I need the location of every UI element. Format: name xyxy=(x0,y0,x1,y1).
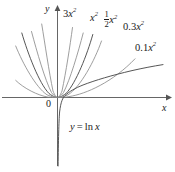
curve-label-half-x-squared: 12x2 xyxy=(104,10,117,29)
curve-label-0-1-x-squared-exponent: 2 xyxy=(153,40,156,47)
logarithm-curve-group xyxy=(58,65,163,166)
plot-canvas xyxy=(0,0,175,172)
curve-label-natural-log: y = ln x xyxy=(70,122,100,133)
curve-label-0-3-x-squared-exponent: 2 xyxy=(141,19,144,26)
natural-log-variable: x xyxy=(95,121,100,132)
function-graph-figure: 3x2 x2 12x2 0.3x2 0.1x2 y = ln x y x 0 xyxy=(0,0,175,172)
power-function-curves xyxy=(16,24,135,98)
curve-label-0-3-x-squared-coefficient: 0.3 xyxy=(123,21,136,32)
curve-label-half-x-squared-exponent: 2 xyxy=(114,13,117,20)
curve-0-3-x-squared xyxy=(16,41,102,98)
y-axis-label: y xyxy=(45,4,49,14)
origin-label: 0 xyxy=(46,99,51,109)
x-axis-arrow-icon xyxy=(166,95,172,101)
curve-label-3x-squared-exponent: 2 xyxy=(73,6,76,13)
curve-label-x-squared: x2 xyxy=(90,11,98,23)
curve-label-0-1-x-squared: 0.1x2 xyxy=(135,41,156,53)
curve-0-1-x-squared xyxy=(16,59,135,98)
curve-label-3x-squared: 3x2 xyxy=(63,7,76,19)
y-axis-arrow-icon xyxy=(55,5,61,11)
curve-label-x-squared-exponent: 2 xyxy=(95,10,98,17)
curve-natural-log xyxy=(58,65,163,166)
axes-group xyxy=(2,5,172,166)
curve-label-0-3-x-squared: 0.3x2 xyxy=(123,20,144,32)
natural-log-function: ln xyxy=(85,121,93,132)
x-axis-label: x xyxy=(162,103,166,113)
curve-label-0-1-x-squared-coefficient: 0.1 xyxy=(135,42,148,53)
